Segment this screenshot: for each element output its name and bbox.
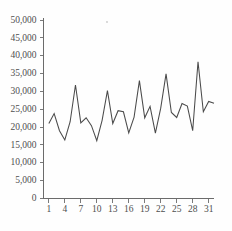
x-axis-tick-label: 19 (140, 204, 150, 214)
line-chart: 05,00010,00015,00020,00025,00030,00035,0… (0, 0, 232, 231)
x-axis-tick-label: 16 (124, 204, 134, 214)
y-axis-tick-label: 45,000 (10, 33, 36, 43)
y-axis-tick-label: 40,000 (10, 50, 36, 60)
image-speck (106, 21, 108, 23)
x-axis-tick-label: 25 (172, 204, 182, 214)
y-axis-tick-label: 5,000 (15, 175, 37, 185)
y-axis-tick-label: 35,000 (10, 68, 36, 78)
x-axis-tick-label: 1 (46, 204, 51, 214)
x-axis-tick-label: 4 (62, 204, 67, 214)
y-axis-tick-label: 15,000 (10, 140, 36, 150)
x-axis-tick-label: 10 (92, 204, 102, 214)
y-axis-tick-label: 25,000 (10, 104, 36, 114)
y-axis-tick-label: 50,000 (10, 15, 36, 25)
x-axis-tick-label: 31 (204, 204, 214, 214)
x-axis-tick-label: 13 (108, 204, 118, 214)
x-axis-tick-label: 7 (78, 204, 83, 214)
y-axis-tick-label: 10,000 (10, 157, 36, 167)
y-axis-tick-label: 30,000 (10, 86, 36, 96)
x-axis-tick-label: 28 (188, 204, 198, 214)
x-axis-tick-label: 22 (156, 204, 166, 214)
y-axis-tick-label: 0 (32, 193, 37, 203)
y-axis-tick-label: 20,000 (10, 122, 36, 132)
chart-container: 05,00010,00015,00020,00025,00030,00035,0… (0, 0, 232, 231)
